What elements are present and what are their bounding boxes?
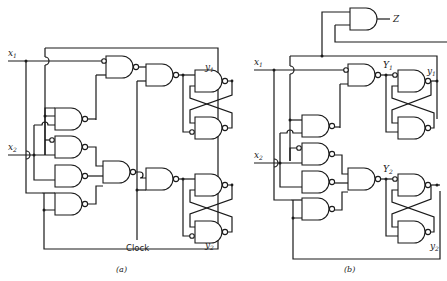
excitation-Y2-label: Y2 [383,164,393,175]
output-y2-label-b: y2 [429,241,439,252]
input-x2-label-a: x2 [8,142,17,153]
input-x2-label-b: x2 [254,150,263,161]
excitation-Y1-label: Y1 [383,60,393,71]
output-y1-label-a: y1 [204,62,214,73]
caption-a: (a) [116,265,127,274]
z-output-label: Z [392,14,400,24]
input-x1-label-b: x1 [254,57,263,68]
output-y1-label-b: y1 [426,66,436,77]
panel-b-circuit: Z x1 x2 Y1 Y2 y1 y2 (b) [254,8,447,274]
panel-a-circuit: x1 x2 y1 y2 Clock (a) [8,48,233,274]
logic-circuit-figure: x1 x2 y1 y2 Clock (a) [0,0,447,281]
input-x1-label-a: x1 [8,48,17,59]
caption-b: (b) [344,265,355,274]
clock-label: Clock [126,243,149,253]
